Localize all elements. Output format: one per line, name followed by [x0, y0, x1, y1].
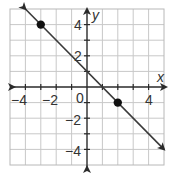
x-tick-label-4: 4 — [145, 92, 153, 108]
y-tick-label-neg2: −2 — [65, 112, 81, 128]
y-axis-label: y — [91, 7, 100, 23]
y-tick-label-neg4: −4 — [65, 143, 81, 159]
point-2-neg1 — [114, 98, 122, 106]
point-neg3-4 — [37, 20, 45, 28]
x-tick-label-neg2: −2 — [42, 92, 58, 108]
line-y-equals-neg-x-plus-1 — [25, 9, 164, 149]
y-tick-label-4: 4 — [74, 17, 82, 33]
coordinate-plane: −4 −2 0 4 4 2 −2 −4 x y — [0, 0, 172, 175]
x-tick-label-neg4: −4 — [11, 92, 27, 108]
x-axis-label: x — [156, 69, 165, 85]
origin-label: 0 — [76, 90, 84, 106]
